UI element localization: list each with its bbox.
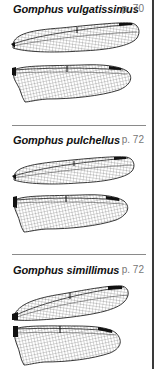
forewing-illustration bbox=[11, 20, 141, 56]
species-name: Gomphus vulgatissimus bbox=[13, 3, 139, 15]
section-divider bbox=[12, 125, 146, 126]
page-reference: p. 72 bbox=[122, 134, 144, 145]
page-reference: p. 72 bbox=[122, 264, 144, 275]
species-entry-simillimus: Gomphus simillimus p. 72 bbox=[0, 260, 152, 369]
hindwing-illustration bbox=[12, 192, 130, 234]
species-entry-pulchellus: Gomphus pulchellus p. 72 bbox=[0, 130, 152, 256]
species-name: Gomphus simillimus bbox=[13, 264, 119, 276]
forewing-illustration bbox=[12, 282, 132, 324]
entry-header: Gomphus simillimus p. 72 bbox=[13, 264, 144, 278]
page-edge-line bbox=[152, 0, 154, 369]
entry-header: Gomphus pulchellus p. 72 bbox=[13, 134, 144, 148]
entry-header: Gomphus vulgatissimus p. 70 bbox=[13, 3, 144, 17]
forewing-illustration bbox=[12, 154, 136, 188]
species-entry-vulgatissimus: Gomphus vulgatissimus p. 70 bbox=[0, 0, 152, 126]
page-reference: p. 70 bbox=[122, 3, 144, 14]
hindwing-illustration bbox=[12, 323, 124, 367]
section-divider bbox=[12, 254, 146, 255]
species-name: Gomphus pulchellus bbox=[13, 134, 120, 146]
hindwing-illustration bbox=[11, 62, 133, 104]
